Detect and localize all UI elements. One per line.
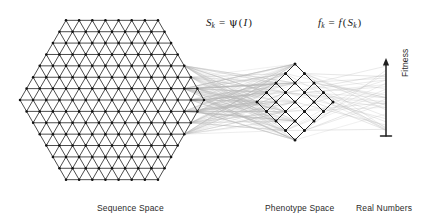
label-real-numbers: Real Numbers: [356, 203, 412, 213]
label-sequence-space: Sequence Space: [97, 203, 164, 213]
label-phenotype-space: Phenotype Space: [265, 203, 334, 213]
sequence-space-lattice: [19, 19, 206, 181]
mapping-lines-sequence-to-phenotype: [184, 64, 295, 140]
formula-phenotype-to-fitness: fk = f(Sk): [318, 16, 362, 30]
label-fitness: Fitness: [400, 49, 410, 77]
genotype-phenotype-fitness-figure: [0, 0, 432, 218]
formula-genotype-to-phenotype: Sk = ψ(I): [206, 16, 253, 30]
